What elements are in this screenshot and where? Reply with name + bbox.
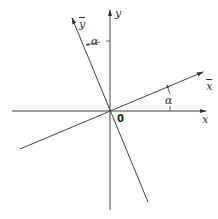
ybar-label: y bbox=[79, 18, 85, 31]
y-label: y bbox=[115, 8, 121, 19]
origin-label: 0 bbox=[117, 114, 124, 124]
rotated-axes-diagram: y y α x α x 0 bbox=[0, 0, 218, 219]
axes-drawing bbox=[0, 0, 218, 219]
xbar-label: x bbox=[206, 80, 212, 93]
x-label: x bbox=[202, 114, 208, 125]
alpha-label-top: α bbox=[91, 36, 98, 47]
alpha-label-right: α bbox=[165, 95, 172, 106]
